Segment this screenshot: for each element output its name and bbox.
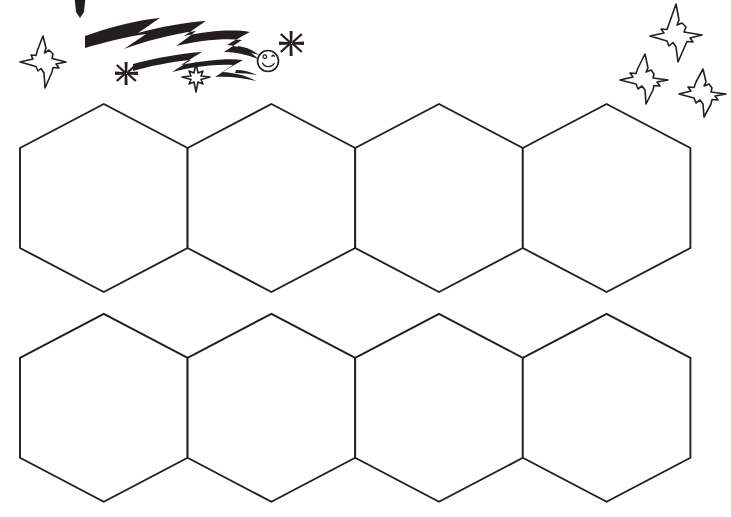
worksheet-page bbox=[0, 0, 731, 517]
hexagon-template-artboard bbox=[0, 0, 731, 517]
